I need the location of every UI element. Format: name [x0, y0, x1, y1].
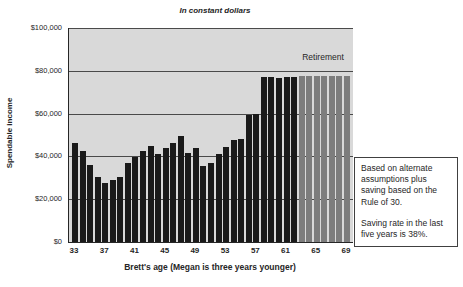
bar-age-49 — [193, 148, 199, 242]
annotation-paragraph-1: Based on alternate assumptions plus savi… — [361, 163, 451, 208]
annotation-box: Based on alternate assumptions plus savi… — [354, 157, 458, 247]
x-tick-65: 65 — [306, 246, 326, 255]
bar-age-65 — [314, 76, 320, 242]
x-tick-61: 61 — [276, 246, 296, 255]
x-tick-45: 45 — [155, 246, 175, 255]
bar-age-66 — [321, 76, 327, 242]
bar-age-36 — [95, 177, 101, 242]
bar-age-40 — [125, 163, 131, 242]
y-tick-100000: $100,000 — [0, 23, 62, 32]
y-tick-0: $0 — [0, 237, 62, 246]
bar-age-48 — [185, 153, 191, 242]
screenshot-canvas: In constant dollars Spendable income $0$… — [0, 0, 463, 287]
bar-age-46 — [170, 143, 176, 243]
bar-age-63 — [299, 76, 305, 242]
x-tick-49: 49 — [185, 246, 205, 255]
bar-age-39 — [117, 177, 123, 242]
bar-age-50 — [200, 166, 206, 242]
bar-age-34 — [80, 151, 86, 242]
x-tick-69: 69 — [336, 246, 356, 255]
bar-age-43 — [148, 146, 154, 242]
y-tick-60000: $60,000 — [0, 109, 62, 118]
bar-age-67 — [329, 76, 335, 242]
bar-age-45 — [163, 148, 169, 242]
bar-age-47 — [178, 136, 184, 242]
bar-age-69 — [344, 76, 350, 242]
bar-age-59 — [268, 77, 274, 242]
bar-age-55 — [238, 139, 244, 242]
retirement-label: Retirement — [283, 52, 363, 62]
bar-age-54 — [231, 140, 237, 242]
bar-age-60 — [276, 78, 282, 242]
bar-age-56 — [246, 115, 252, 242]
bar-age-68 — [336, 76, 342, 242]
bar-age-41 — [132, 157, 138, 242]
x-tick-33: 33 — [64, 246, 84, 255]
x-axis-title: Brett's age (Megan is three years younge… — [80, 262, 340, 272]
bar-age-64 — [306, 76, 312, 242]
bar-age-58 — [261, 77, 267, 242]
x-tick-53: 53 — [215, 246, 235, 255]
y-tick-20000: $20,000 — [0, 194, 62, 203]
bar-age-51 — [208, 163, 214, 242]
x-tick-41: 41 — [124, 246, 144, 255]
x-tick-37: 37 — [94, 246, 114, 255]
y-tick-40000: $40,000 — [0, 151, 62, 160]
bar-age-37 — [102, 183, 108, 242]
bar-age-38 — [110, 180, 116, 242]
bar-age-62 — [291, 77, 297, 242]
bar-age-33 — [72, 143, 78, 243]
bar-age-44 — [155, 154, 161, 242]
bar-age-57 — [253, 114, 259, 242]
bar-age-53 — [223, 147, 229, 242]
bar-age-61 — [284, 77, 290, 242]
bar-age-35 — [87, 165, 93, 242]
bar-age-52 — [216, 154, 222, 242]
annotation-paragraph-2: Saving rate in the last five years is 38… — [361, 218, 451, 240]
x-tick-57: 57 — [245, 246, 265, 255]
y-axis-title: Spendable income — [5, 78, 17, 188]
bar-age-42 — [140, 151, 146, 242]
chart-title: In constant dollars — [110, 6, 320, 15]
y-tick-80000: $80,000 — [0, 66, 62, 75]
gridline — [69, 28, 353, 29]
gridline — [69, 71, 353, 72]
